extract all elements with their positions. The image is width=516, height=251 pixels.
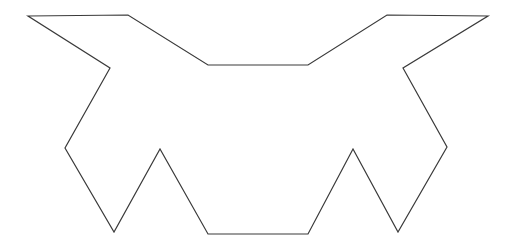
figure-svg-container xyxy=(0,0,516,251)
drawing-canvas xyxy=(0,0,516,251)
